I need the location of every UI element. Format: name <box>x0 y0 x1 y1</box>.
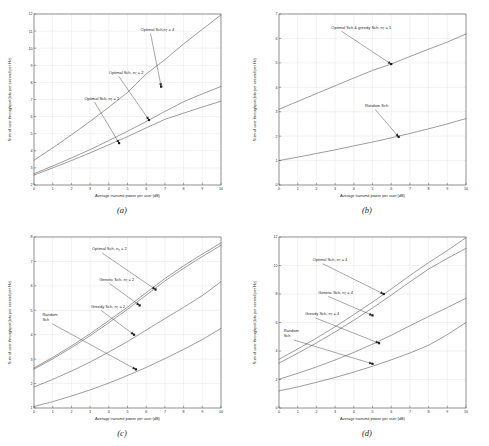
y-tick-label: 6 <box>30 284 32 288</box>
x-tick-label: 3 <box>334 410 336 414</box>
x-tick-label: 6 <box>145 410 147 414</box>
x-tick-label: 10 <box>464 187 468 191</box>
x-tick-label: 8 <box>183 410 185 414</box>
y-tick-label: 4 <box>30 333 32 337</box>
y-tick-label: 7 <box>30 260 32 264</box>
annotation-point-marker <box>160 86 162 88</box>
annotation: Optimal Sch, nT = 2 <box>92 246 157 290</box>
x-tick-label: 2 <box>70 410 72 414</box>
x-tick-label: 5 <box>372 410 374 414</box>
annotation-arrow-line <box>315 318 376 342</box>
x-tick-label: 0 <box>278 187 280 191</box>
y-tick-label: 6 <box>275 321 277 325</box>
y-tick-label: 4 <box>30 149 32 153</box>
panel-c: 01234567891012345678Average transmit pow… <box>0 223 244 446</box>
y-tick-label: 8 <box>30 235 32 239</box>
x-tick-label: 7 <box>164 410 166 414</box>
y-tick-label: 2 <box>275 135 277 139</box>
annotation-label: Genetic Sch, nT = 4 <box>318 290 353 296</box>
panel-b-plot: 01234567891001234567Average transmit pow… <box>245 0 489 223</box>
y-tick-label: 2 <box>30 382 32 386</box>
y-tick-label: 6 <box>30 115 32 119</box>
y-tick-label: 8 <box>275 292 277 296</box>
y-tick-label: 2 <box>30 183 32 187</box>
y-tick-label: 0 <box>275 406 277 410</box>
y-tick-label: 0 <box>275 183 277 187</box>
y-tick-label: 12 <box>273 235 277 239</box>
annotation: Genetic Sch, nT = 2 <box>99 277 140 307</box>
y-tick-label: 1 <box>30 406 32 410</box>
y-tick-label: 9 <box>30 64 32 68</box>
annotation-arrow-line <box>52 324 133 368</box>
annotation-point-marker <box>398 136 400 138</box>
y-tick-label: 7 <box>30 98 32 102</box>
annotation: Optimal Sch & greedy Sch, nT = 1 <box>331 25 392 66</box>
x-tick-label: 4 <box>108 187 110 191</box>
x-tick-label: 3 <box>334 187 336 191</box>
x-tick-label: 9 <box>201 187 203 191</box>
annotation-arrow-line <box>101 310 132 333</box>
x-tick-label: 9 <box>446 410 448 414</box>
x-axis-label: Average transmit power per user (dB) <box>340 416 406 421</box>
y-axis-label: Sum of user throughput (bits per second … <box>7 280 12 364</box>
x-tick-label: 10 <box>219 187 223 191</box>
x-tick-label: 10 <box>219 410 223 414</box>
x-tick-label: 0 <box>278 410 280 414</box>
x-axis-label: Average transmit power per user (dB) <box>340 193 406 198</box>
x-tick-label: 7 <box>164 187 166 191</box>
annotation-label: Optimal Sch, nT = 2 <box>109 70 144 76</box>
annotation-point-marker <box>390 63 392 65</box>
x-tick-label: 6 <box>390 410 392 414</box>
annotation-arrow-line <box>102 253 153 288</box>
x-tick-label: 7 <box>409 410 411 414</box>
annotation-label: Optimal Sch & greedy Sch, nT = 1 <box>331 25 392 31</box>
x-tick-label: 1 <box>297 410 299 414</box>
annotation-point-marker <box>135 368 137 370</box>
x-tick-label: 4 <box>353 410 355 414</box>
y-axis-label: Sum of user throughput (bits per second … <box>252 57 257 141</box>
annotation: RandomSch <box>284 328 374 364</box>
annotation-label: Optimal Sch,nT = 4 <box>141 27 175 33</box>
x-tick-label: 0 <box>33 187 35 191</box>
annotation-label: Random Sch <box>365 103 388 108</box>
annotation-arrow-line <box>375 109 397 135</box>
annotation-point-marker <box>118 142 120 144</box>
caption-c: (c) <box>0 428 244 438</box>
x-tick-label: 9 <box>446 187 448 191</box>
y-tick-label: 4 <box>275 86 277 90</box>
annotation-point-marker <box>371 363 373 365</box>
panel-d: 012345678910024681012Average transmit po… <box>245 223 489 446</box>
y-tick-label: 3 <box>30 166 32 170</box>
y-tick-label: 10 <box>273 264 277 268</box>
annotation-arrow-line <box>151 34 161 85</box>
y-tick-label: 4 <box>275 349 277 353</box>
x-tick-label: 2 <box>315 410 317 414</box>
annotation: Random Sch <box>365 103 400 138</box>
annotation-arrow-line <box>94 102 117 141</box>
x-tick-label: 8 <box>428 410 430 414</box>
panel-d-plot: 012345678910024681012Average transmit po… <box>245 223 489 446</box>
x-axis-label: Average transmit power per user (dB) <box>95 416 161 421</box>
y-tick-label: 3 <box>30 358 32 362</box>
annotation-label: Genetic Sch, nT = 2 <box>99 277 134 283</box>
x-tick-label: 9 <box>201 410 203 414</box>
panel-c-plot: 01234567891012345678Average transmit pow… <box>0 223 244 446</box>
x-tick-label: 5 <box>127 410 129 414</box>
x-tick-label: 1 <box>52 410 54 414</box>
annotation-arrow-line <box>294 340 370 363</box>
y-tick-label: 12 <box>28 12 32 16</box>
x-tick-label: 6 <box>390 187 392 191</box>
annotation: RandomSch <box>42 312 137 370</box>
annotation-point-marker <box>383 293 385 295</box>
annotation-point-marker <box>133 334 135 336</box>
x-tick-label: 5 <box>127 187 129 191</box>
y-tick-label: 8 <box>30 81 32 85</box>
annotation: Optimal Sch,nT = 4 <box>141 27 175 88</box>
annotation-point-marker <box>148 119 150 121</box>
x-tick-label: 2 <box>70 187 72 191</box>
annotation-label: Optimal Sch, nT = 1 <box>84 96 119 102</box>
x-tick-label: 1 <box>297 187 299 191</box>
annotation-label: Sch <box>42 317 49 322</box>
x-tick-label: 10 <box>464 410 468 414</box>
y-tick-label: 10 <box>28 47 32 51</box>
